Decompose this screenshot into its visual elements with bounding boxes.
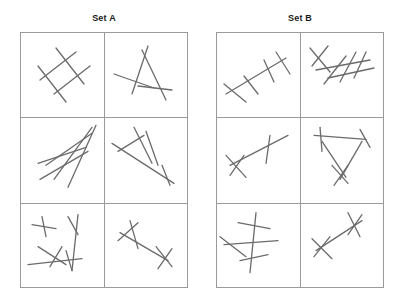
stroke-segment — [118, 135, 144, 151]
figure-cell-a4 — [112, 127, 174, 185]
set-a-title: Set A — [20, 12, 188, 24]
set-a-grid — [20, 32, 188, 288]
stroke-segment — [138, 86, 172, 90]
figure-cell-b5 — [220, 213, 278, 273]
stroke-segment — [72, 215, 78, 271]
stroke-segment — [314, 135, 366, 139]
figure-cell-b6 — [312, 213, 362, 259]
figure-cell-b4 — [314, 127, 370, 185]
stroke-segment — [54, 66, 90, 94]
stroke-segment — [68, 125, 96, 187]
stroke-segment — [226, 58, 286, 94]
stroke-segment — [54, 127, 92, 179]
stroke-segment — [324, 56, 346, 84]
stroke-segment — [134, 127, 152, 163]
stroke-segment — [224, 241, 278, 245]
stroke-segment — [322, 141, 346, 177]
figure-cell-a2 — [114, 46, 172, 100]
set-b-grid — [216, 32, 384, 288]
figure-cell-b3 — [226, 135, 288, 177]
stroke-segment — [320, 127, 322, 151]
set-b-title: Set B — [216, 12, 384, 24]
set-a-canvas — [20, 32, 188, 288]
stroke-segment — [56, 48, 84, 84]
figure-cell-a1 — [38, 48, 90, 102]
stroke-segment — [162, 165, 170, 185]
stroke-segment — [312, 46, 328, 66]
stroke-segment — [266, 135, 270, 163]
figure-cell-a6 — [118, 221, 172, 269]
stroke-segment — [354, 52, 366, 78]
stroke-segment — [220, 237, 246, 257]
stroke-segment — [50, 247, 62, 267]
stroke-segment — [130, 221, 138, 249]
stroke-segment — [360, 129, 370, 147]
figure-cell-b2 — [310, 46, 374, 84]
stroke-segment — [156, 247, 172, 267]
stroke-segment — [334, 165, 348, 185]
stroke-segment — [142, 50, 166, 100]
figure-cell-a3 — [38, 125, 96, 187]
stroke-segment — [146, 131, 158, 165]
figure-cell-b1 — [224, 52, 290, 102]
set-b-canvas — [216, 32, 384, 288]
stroke-segment — [120, 233, 168, 261]
stroke-segment — [230, 135, 288, 165]
set-a-title-row: Set A — [20, 12, 188, 24]
figure-cell-a5 — [28, 215, 82, 271]
set-b-title-row: Set B — [216, 12, 384, 24]
figure-root: Set A Set B — [0, 0, 402, 305]
stroke-segment — [114, 74, 154, 88]
stroke-segment — [340, 141, 362, 179]
stroke-segment — [38, 147, 86, 163]
